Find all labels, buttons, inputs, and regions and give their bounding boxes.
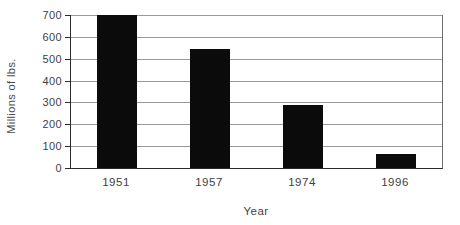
- bar-1996: [376, 154, 416, 168]
- y-tick-label-100: 100: [26, 140, 62, 153]
- y-tick-mark-600: [65, 37, 70, 38]
- y-tick-mark-400: [65, 81, 70, 82]
- y-tick-mark-100: [65, 146, 70, 147]
- y-tick-label-400: 400: [26, 75, 62, 88]
- y-tick-mark-0: [65, 168, 70, 169]
- x-tick-label-1957: 1957: [177, 176, 241, 189]
- bar-chart-figure: Millions of lbs. 01002003004005006007001…: [0, 0, 460, 225]
- y-tick-mark-200: [65, 124, 70, 125]
- x-tick-label-1974: 1974: [270, 176, 334, 189]
- y-tick-mark-300: [65, 102, 70, 103]
- y-tick-label-200: 200: [26, 118, 62, 131]
- y-tick-label-600: 600: [26, 31, 62, 44]
- y-tick-label-500: 500: [26, 53, 62, 66]
- x-tick-label-1996: 1996: [363, 176, 427, 189]
- bar-1951: [97, 15, 137, 168]
- y-tick-label-700: 700: [26, 9, 62, 22]
- y-tick-mark-500: [65, 59, 70, 60]
- y-tick-mark-700: [65, 15, 70, 16]
- bar-1957: [190, 49, 230, 168]
- bar-1974: [283, 105, 323, 168]
- x-axis-title: Year: [243, 205, 268, 217]
- plot-area: [70, 15, 443, 169]
- y-tick-label-300: 300: [26, 96, 62, 109]
- y-tick-label-0: 0: [26, 162, 62, 175]
- y-axis-title: Millions of lbs.: [5, 58, 17, 133]
- x-tick-label-1951: 1951: [84, 176, 148, 189]
